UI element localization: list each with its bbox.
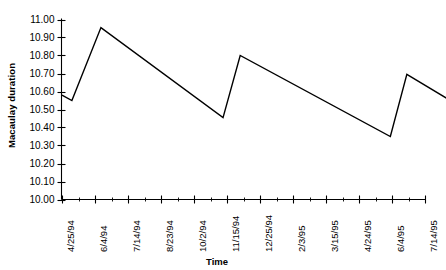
x-tick-label: 4/24/95 bbox=[363, 220, 373, 252]
y-tick-label: 10.20 bbox=[29, 159, 54, 169]
x-tick-label: 6/4/95 bbox=[396, 225, 406, 251]
x-tick-label: 2/3/95 bbox=[297, 225, 307, 251]
x-tick-label: 7/14/94 bbox=[132, 220, 142, 252]
x-tick-label: 3/15/95 bbox=[330, 220, 340, 252]
y-tick-label: 10.80 bbox=[29, 51, 54, 61]
y-tick-label: 10.10 bbox=[29, 177, 54, 187]
x-tick-label: 6/4/94 bbox=[99, 225, 109, 251]
y-tick-label: 10.30 bbox=[29, 141, 54, 151]
y-tick-label: 10.50 bbox=[29, 105, 54, 115]
x-tick-label: 8/23/94 bbox=[165, 220, 175, 252]
x-tick-label: 11/15/94 bbox=[231, 215, 241, 251]
x-tick-label: 10/2/94 bbox=[198, 220, 208, 252]
x-tick-label: 7/14/95 bbox=[429, 220, 439, 252]
chart-container: Macaulay duration 11.0010.9010.8010.7010… bbox=[0, 0, 446, 270]
y-tick-label: 10.70 bbox=[29, 69, 54, 79]
x-tick-label: 4/25/94 bbox=[66, 220, 76, 252]
y-tick-label: 10.40 bbox=[29, 123, 54, 133]
y-axis-title-wrap: Macaulay duration bbox=[0, 0, 24, 210]
x-tick-label: 12/25/94 bbox=[264, 215, 274, 252]
y-tick-label: 10.90 bbox=[29, 33, 54, 43]
y-tick-label: 11.00 bbox=[30, 15, 54, 25]
y-tick-label: 10.60 bbox=[29, 87, 54, 97]
x-axis-title: Time bbox=[206, 256, 228, 267]
y-axis-title: Macaulay duration bbox=[7, 62, 18, 147]
y-tick-label: 10.00 bbox=[29, 195, 54, 205]
